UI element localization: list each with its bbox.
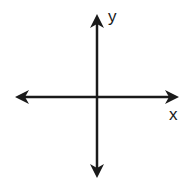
y-axis-label: y [108,7,117,26]
x-axis-label: x [169,105,178,124]
coordinate-axes-diagram: y x [0,0,190,184]
